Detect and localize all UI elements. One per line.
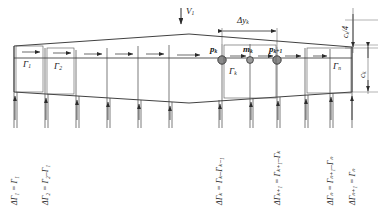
gamma-n-label: Γn: [333, 62, 341, 72]
control-point-markers: [218, 56, 281, 64]
gamma-2-label: Γ2: [54, 62, 62, 72]
trailing-vortex-lines: [14, 92, 352, 128]
point-pk-label: pk: [210, 45, 217, 55]
point-mk-label: mk: [243, 45, 253, 55]
delta-gamma-1-equation: ΔΓ₁ = Γ₁: [11, 176, 19, 205]
chord-label: ck: [358, 72, 368, 78]
gamma-1-label: Γ1: [23, 60, 31, 70]
quarter-chord-label: ck/4: [342, 26, 351, 38]
chord-dimension: [352, 44, 378, 94]
freestream-velocity-label: V1: [186, 7, 194, 17]
delta-gamma-n-equation: ΔΓₙ = Γₙ₊₁–Γₙ: [327, 157, 335, 205]
wing-planform-outline: [14, 34, 352, 103]
delta-gamma-k1-equation: ΔΓₖ₊₁ = Γₖ₊₁–Γₖ: [274, 151, 282, 205]
gamma-k-label: Γk: [229, 67, 237, 77]
delta-gamma-n1-equation: ΔΓₙ₊₁ = Γₙ: [349, 169, 357, 205]
point-pk1-label: pk+1: [269, 45, 282, 55]
figure-canvas: V1 Δyk ck/4 ck Γ1 Γ2 Γk Γn pk mk pk+1 ΔΓ…: [0, 0, 378, 214]
panel-width-label: Δyk: [237, 16, 249, 26]
delta-gamma-2-equation: ΔΓ₂ = Γ₂–Γ₁: [42, 165, 50, 205]
wing-vortex-lattice-svg: [0, 0, 378, 214]
delta-gamma-k-equation: ΔΓₖ = Γₖ–Γₖ₋₁: [216, 157, 224, 205]
